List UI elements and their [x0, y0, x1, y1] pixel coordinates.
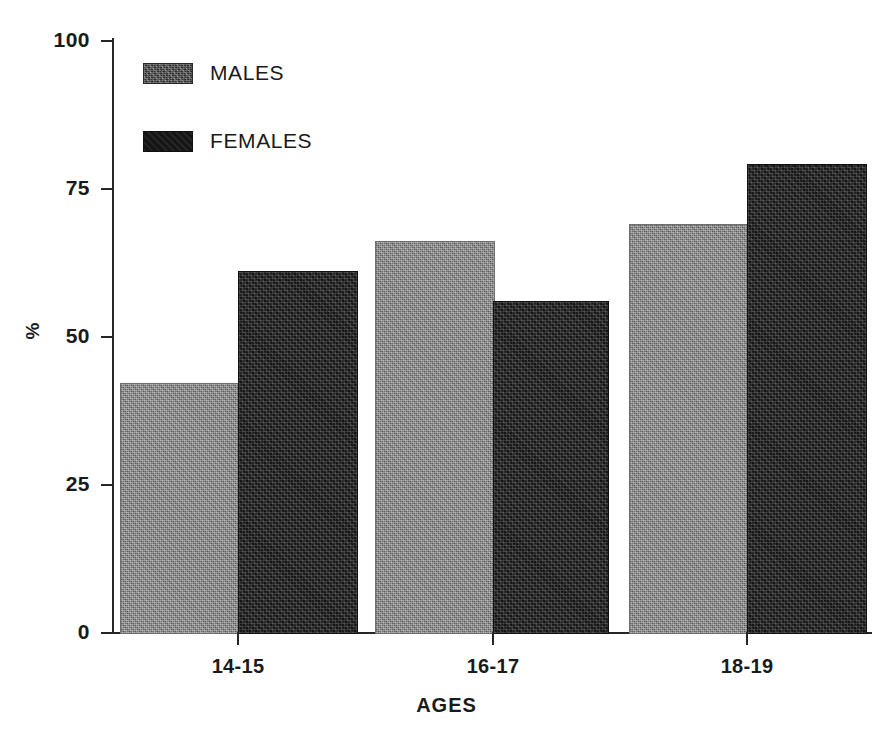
legend-swatch-females-icon	[143, 131, 193, 152]
bar-females-14-15	[238, 271, 358, 634]
y-tick-mark-25	[101, 484, 113, 486]
x-tick-mark-16-17	[492, 632, 494, 645]
y-tick-label-100: 100	[18, 29, 90, 50]
legend-label-females: FEMALES	[210, 129, 312, 153]
bar-chart: 100 75 50 25 0 % 14-15 16-17 18-19 AGES …	[0, 0, 893, 732]
y-tick-mark-50	[101, 336, 113, 338]
legend-label-males: MALES	[210, 61, 284, 85]
bar-females-18-19	[747, 164, 867, 634]
legend: MALES FEMALES	[143, 58, 312, 194]
y-axis-title: %	[22, 306, 44, 356]
x-axis-title: AGES	[0, 694, 893, 717]
bar-females-16-17	[493, 301, 609, 634]
bar-males-14-15	[120, 383, 240, 634]
x-tick-mark-18-19	[746, 632, 748, 645]
y-tick-mark-0	[101, 632, 113, 634]
bar-males-16-17	[375, 241, 495, 634]
legend-swatch-males-icon	[143, 63, 193, 84]
x-tick-mark-14-15	[237, 632, 239, 645]
y-tick-mark-75	[101, 188, 113, 190]
x-tick-label-18-19: 18-19	[677, 655, 817, 678]
y-tick-label-0: 0	[18, 621, 90, 642]
x-tick-label-16-17: 16-17	[423, 655, 563, 678]
y-tick-mark-100	[101, 40, 113, 42]
legend-item-males: MALES	[143, 58, 312, 88]
x-tick-label-14-15: 14-15	[168, 655, 308, 678]
legend-item-females: FEMALES	[143, 126, 312, 156]
y-tick-label-25: 25	[18, 473, 90, 494]
y-tick-label-75: 75	[18, 177, 90, 198]
bar-males-18-19	[629, 224, 749, 634]
